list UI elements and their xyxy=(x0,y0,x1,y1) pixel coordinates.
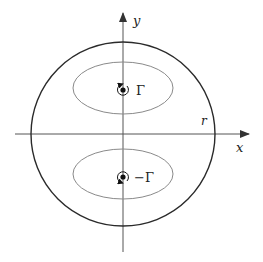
vortex-point-icon xyxy=(120,87,125,92)
upper-vortex-label: Γ xyxy=(136,83,145,98)
vortex-pair-diagram: y x r Γ −Γ xyxy=(0,0,263,262)
radius-label: r xyxy=(201,114,208,128)
lower-vortex-label: −Γ xyxy=(134,170,154,185)
diagram-svg: y x r Γ −Γ xyxy=(0,0,263,262)
y-axis-label: y xyxy=(132,13,141,28)
vortex-point-icon xyxy=(120,174,125,179)
x-axis-label: x xyxy=(236,140,244,155)
